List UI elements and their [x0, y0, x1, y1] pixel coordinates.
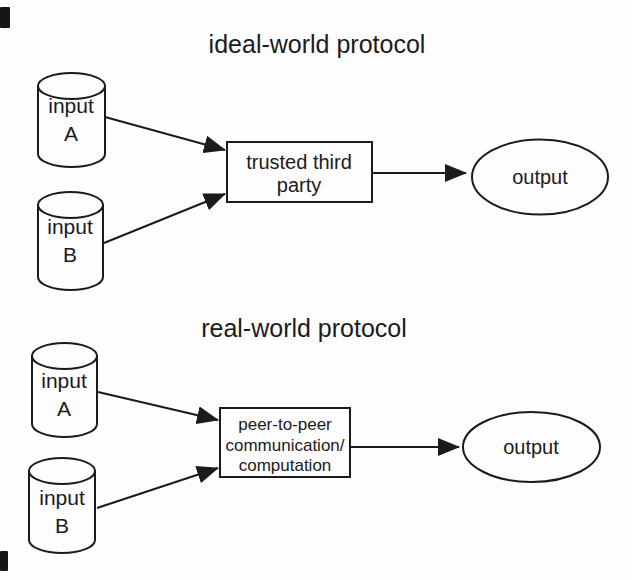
scan-artifact-bottom-left	[0, 551, 8, 571]
scan-artifact-top-left	[0, 7, 10, 28]
ideal-arrow-input-a-to-box	[105, 117, 225, 150]
real-arrow-input-b-to-box	[97, 468, 218, 508]
real-input-a-label-line2: A	[57, 397, 71, 420]
real-output-ellipse: output	[463, 412, 600, 482]
ideal-box-label-line1: trusted third	[246, 151, 352, 173]
protocol-diagram: ideal-world protocol input A input B	[0, 0, 632, 580]
ideal-input-a-label-line1: input	[48, 94, 94, 117]
real-input-a-cylinder: input A	[32, 343, 97, 437]
cylinder-top	[29, 458, 95, 484]
ideal-input-a-cylinder: input A	[38, 73, 105, 167]
cylinder-top	[32, 343, 97, 369]
real-arrow-input-a-to-box	[98, 392, 218, 420]
ideal-output-ellipse: output	[472, 140, 608, 215]
real-output-label: output	[503, 436, 559, 458]
ideal-output-label: output	[512, 166, 568, 188]
ideal-world-title: ideal-world protocol	[209, 30, 426, 58]
real-box-label-line1: peer-to-peer	[238, 415, 332, 434]
ideal-input-b-label-line2: B	[63, 243, 77, 266]
real-world-title: real-world protocol	[201, 314, 407, 342]
trusted-third-party-box: trusted third party	[227, 142, 372, 202]
real-input-b-label-line2: B	[55, 514, 69, 537]
ideal-input-b-label-line1: input	[47, 215, 93, 238]
ideal-input-b-cylinder: input B	[38, 192, 103, 290]
real-world-diagram: real-world protocol input A input B	[29, 314, 600, 553]
real-input-b-label-line1: input	[39, 486, 85, 509]
ideal-world-diagram: ideal-world protocol input A input B	[38, 30, 608, 290]
ideal-box-label-line2: party	[277, 174, 321, 196]
real-input-b-cylinder: input B	[29, 458, 95, 553]
protocol-figure: ideal-world protocol input A input B	[0, 0, 632, 580]
real-box-label-line2: communication/	[225, 436, 344, 455]
ideal-input-a-label-line2: A	[64, 122, 78, 145]
real-input-a-label-line1: input	[41, 369, 87, 392]
ideal-arrow-input-b-to-box	[104, 194, 225, 243]
real-box-label-line3: computation	[239, 456, 332, 475]
peer-to-peer-box: peer-to-peer communication/ computation	[220, 408, 350, 477]
